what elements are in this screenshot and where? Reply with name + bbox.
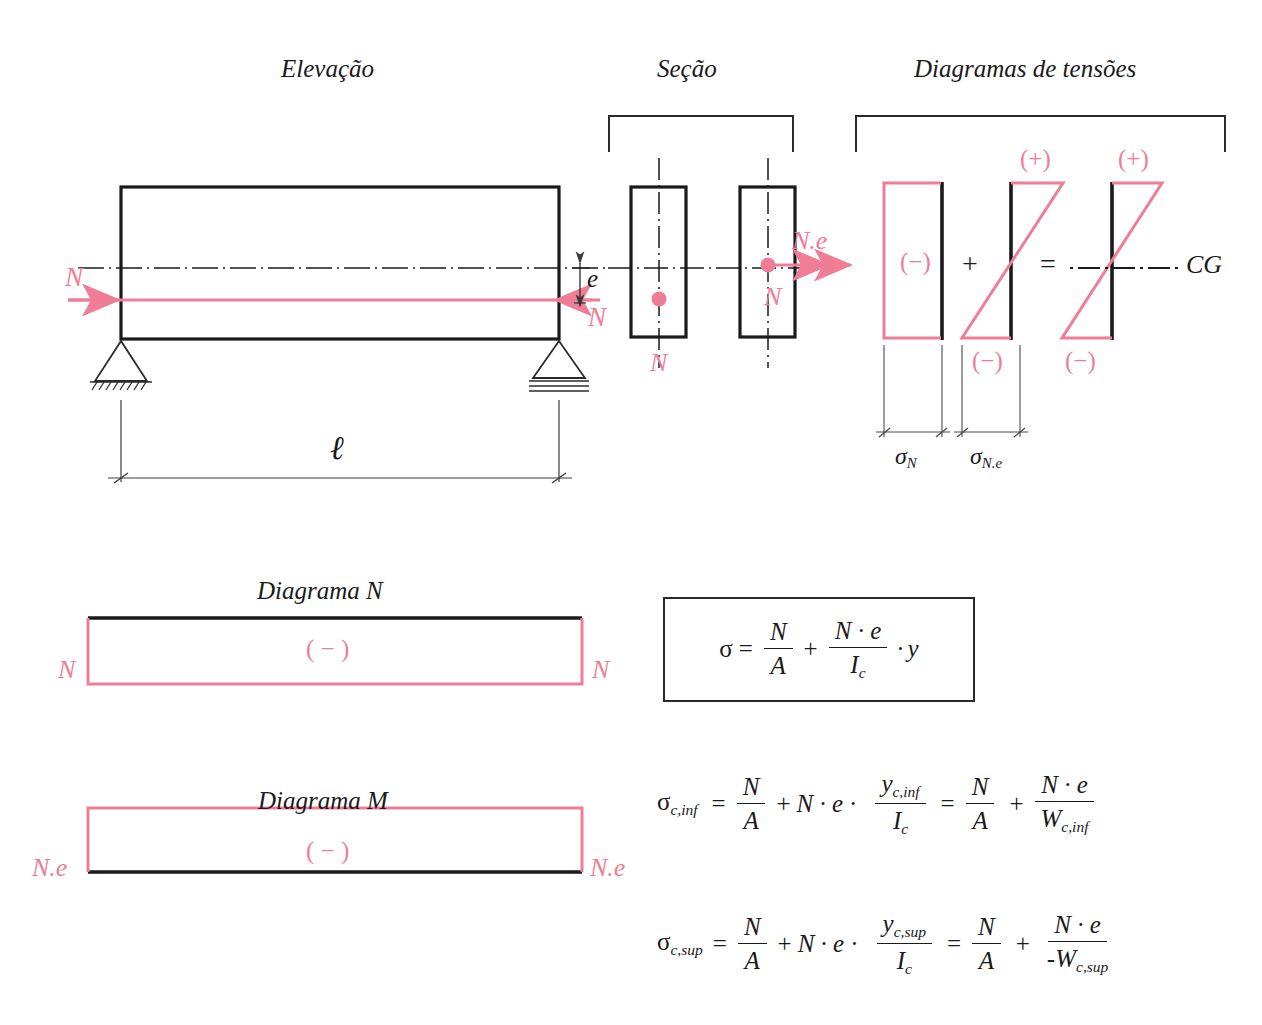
sup-f2-num-sub: c,sup — [894, 923, 926, 940]
diagram-n-left-label: N — [58, 657, 75, 683]
label-cg: CG — [1186, 252, 1222, 278]
inf-lhs: σc,inf — [657, 788, 698, 819]
equation-sigma-c-inf: σc,inf = N A + N · e · yc,inf Ic = N A +… — [657, 770, 1099, 837]
sup-equals-1: = — [713, 930, 727, 958]
boxed-plus: + — [804, 635, 818, 663]
elevation-beam-outline — [121, 187, 559, 339]
inf-f2-num-sub: c,inf — [892, 783, 919, 800]
inf-mid-ne: N · e — [797, 790, 844, 818]
sup-f4-den-prefix: - — [1047, 945, 1055, 972]
sup-f2-den-base: I — [897, 947, 905, 974]
inf-plus-2: + — [1009, 790, 1023, 818]
boxed-formula: σ = N A + N · e Ic · y — [663, 597, 975, 702]
diagram-m-right-label: N.e — [590, 855, 625, 881]
boxed-f1-den: A — [765, 649, 792, 680]
label-section-right-n: N — [764, 284, 781, 310]
sup-fraction-na: N A — [738, 913, 767, 975]
boxed-dot: · — [896, 635, 904, 663]
boxed-f2-den: Ic — [844, 648, 871, 682]
inf-f4-den-sub: c,inf — [1061, 818, 1088, 835]
label-eccentricity-e: e — [587, 266, 598, 291]
inf-lhs-sigma: σ — [657, 788, 670, 815]
inf-f3-num: N — [966, 773, 995, 804]
boxed-equals: = — [739, 635, 753, 663]
sigma-glyph: σ — [895, 443, 907, 469]
sup-f2-num-base: y — [883, 910, 894, 937]
sup-f3-den: A — [973, 944, 1000, 975]
boxed-sigma: σ — [719, 635, 732, 663]
sup-equals-2: = — [947, 930, 961, 958]
stress-diagram-resultant — [1062, 182, 1162, 340]
inf-f2-den-sub: c — [901, 819, 908, 836]
boxed-fraction-na: N A — [764, 618, 793, 680]
diagram-n-right-label: N — [592, 657, 609, 683]
boxed-f2-den-base: I — [850, 651, 858, 678]
sup-fraction-new: N · e -Wc,sup — [1041, 911, 1114, 976]
inf-f4-num: N · e — [1035, 771, 1094, 802]
sup-f4-den-base: W — [1055, 945, 1076, 972]
title-diagrama-n: Diagrama N — [257, 578, 383, 603]
sup-dot: · — [850, 930, 858, 958]
label-force-n-left: N — [65, 264, 83, 291]
sign-plus-resultant: (+) — [1118, 146, 1149, 171]
title-secao: Seção — [657, 56, 717, 81]
sup-fraction-yic: yc,sup Ic — [877, 910, 932, 977]
inf-f2-num-base: y — [881, 770, 892, 797]
inf-fraction-na-2: N A — [966, 773, 995, 835]
diagram-m-left-label: N.e — [32, 855, 67, 881]
boxed-f1-num: N — [764, 618, 793, 649]
inf-equals-2: = — [941, 790, 955, 818]
diagram-canvas — [0, 0, 1262, 1025]
inf-equals-1: = — [712, 790, 726, 818]
dimension-sigma-n — [876, 345, 950, 437]
sign-plus-bending: (+) — [1020, 146, 1051, 171]
sigma-n-subscript: N — [907, 455, 917, 471]
sup-lhs: σc,sup — [657, 928, 703, 959]
equation-sigma-c-sup: σc,sup = N A + N · e · yc,sup Ic = N A +… — [657, 910, 1119, 977]
sup-f1-num: N — [738, 913, 767, 944]
sup-f3-num: N — [972, 913, 1001, 944]
inf-dot: · — [849, 790, 857, 818]
inf-f3-den: A — [966, 804, 993, 835]
label-section-left-n: N — [650, 350, 667, 376]
inf-lhs-sub: c,inf — [670, 801, 697, 818]
inf-f2-num: yc,inf — [875, 770, 925, 804]
label-section-right-ne: N.e — [792, 228, 827, 254]
sup-f4-den: -Wc,sup — [1041, 942, 1114, 976]
sup-lhs-sub: c,sup — [670, 941, 702, 958]
label-force-n-right: N — [588, 304, 606, 331]
sup-f4-den-sub: c,sup — [1076, 958, 1108, 975]
sup-f2-den: Ic — [891, 944, 918, 978]
title-diagrama-m: Diagrama M — [258, 788, 388, 813]
sigma-glyph-2: σ — [970, 443, 982, 469]
section-left — [608, 158, 712, 368]
label-sigma-n: σN — [895, 444, 917, 471]
inf-plus-1: + — [776, 790, 790, 818]
sigma-ne-subscript: N.e — [982, 455, 1002, 471]
sup-fraction-na-2: N A — [972, 913, 1001, 975]
operator-equals: = — [1040, 250, 1056, 278]
sign-minus-resultant: (−) — [1065, 348, 1096, 373]
pinned-support — [90, 341, 152, 390]
figure-root: Elevação Seção Diagramas de tensões N e … — [0, 0, 1262, 1025]
inf-f2-den-base: I — [893, 807, 901, 834]
section-right — [716, 158, 850, 368]
sup-mid-ne: N · e — [798, 930, 845, 958]
sup-plus-1: + — [778, 930, 792, 958]
boxed-fraction-neic: N · e Ic — [829, 617, 888, 682]
sup-plus-2: + — [1016, 930, 1030, 958]
inf-f4-den: Wc,inf — [1035, 802, 1095, 836]
boxed-tail-y: y — [908, 635, 919, 663]
sup-f4-num: N · e — [1048, 911, 1107, 942]
label-sigma-ne: σN.e — [970, 444, 1002, 471]
diagram-m-sign: ( − ) — [306, 838, 349, 863]
boxed-f2-num: N · e — [829, 617, 888, 648]
sup-lhs-sigma: σ — [657, 928, 670, 955]
inf-fraction-new: N · e Wc,inf — [1035, 771, 1095, 836]
sup-f1-den: A — [739, 944, 766, 975]
inf-f2-den: Ic — [887, 804, 914, 838]
title-elevacao: Elevação — [281, 56, 374, 81]
inf-f1-num: N — [737, 773, 766, 804]
inf-fraction-yic: yc,inf Ic — [875, 770, 925, 837]
diagram-n-sign: ( − ) — [306, 636, 349, 661]
